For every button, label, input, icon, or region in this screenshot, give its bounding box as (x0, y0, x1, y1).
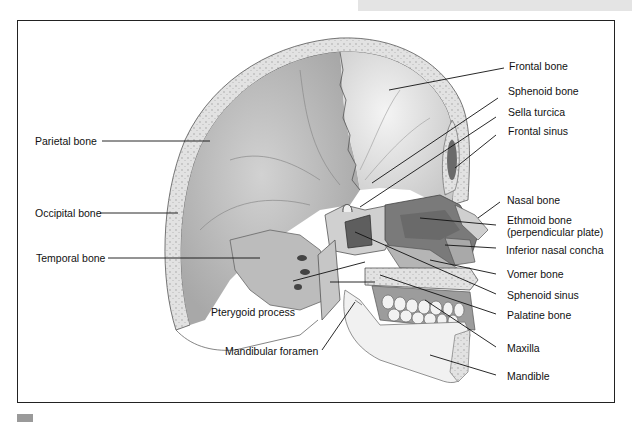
label-ethmoid-bone: Ethmoid bone (perpendicular plate) (507, 214, 603, 238)
nasal-cavity (385, 195, 488, 270)
label-ethmoid-bone-line1: Ethmoid bone (507, 214, 603, 226)
label-frontal-bone: Frontal bone (509, 60, 568, 72)
figure-marker-square (17, 414, 33, 422)
label-parietal-bone: Parietal bone (35, 135, 97, 147)
label-mandibular-foramen: Mandibular foramen (225, 345, 318, 357)
label-sphenoid-bone: Sphenoid bone (508, 85, 579, 97)
label-pterygoid-process: Pterygoid process (211, 306, 295, 318)
temporal-bone-region (230, 230, 330, 310)
label-frontal-sinus: Frontal sinus (508, 125, 568, 137)
label-sella-turcica: Sella turcica (508, 106, 565, 118)
label-ethmoid-bone-line2: (perpendicular plate) (507, 226, 603, 238)
label-occipital-bone: Occipital bone (35, 207, 102, 219)
label-sphenoid-sinus: Sphenoid sinus (507, 289, 579, 301)
label-inferior-nasal-concha: Inferior nasal concha (506, 244, 603, 256)
label-palatine-bone: Palatine bone (507, 309, 571, 321)
label-vomer-bone: Vomer bone (507, 268, 564, 280)
label-temporal-bone: Temporal bone (36, 252, 105, 264)
label-nasal-bone: Nasal bone (507, 194, 560, 206)
label-mandible: Mandible (507, 370, 550, 382)
label-maxilla: Maxilla (507, 342, 540, 354)
